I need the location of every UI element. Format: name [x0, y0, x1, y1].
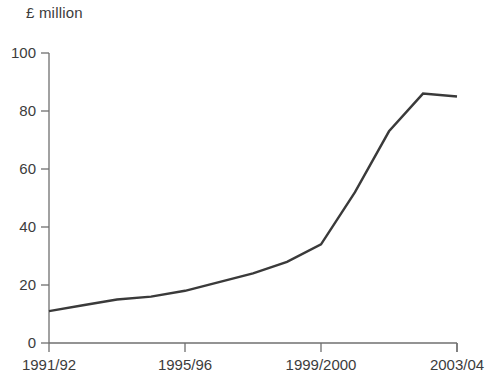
y-axis-tick-label: 40 — [19, 218, 36, 235]
data-series-line — [49, 94, 457, 312]
y-axis-tick-label: 20 — [19, 276, 36, 293]
x-axis-tick-label: 1995/96 — [158, 356, 212, 373]
line-chart-plot: 020406080100 1991/921995/961999/20002003… — [0, 0, 495, 378]
y-axis-tick-label: 100 — [11, 44, 36, 61]
y-axis-tick-group: 020406080100 — [11, 44, 49, 351]
x-axis-tick-label: 1991/92 — [22, 356, 76, 373]
y-axis-tick-label: 60 — [19, 160, 36, 177]
x-axis-tick-group: 1991/921995/961999/20002003/04 — [22, 343, 484, 373]
chart-container: £ million 020406080100 1991/921995/96199… — [0, 0, 495, 378]
x-axis-tick-label: 2003/04 — [430, 356, 484, 373]
x-axis-tick-label: 1999/2000 — [286, 356, 357, 373]
y-axis-tick-label: 0 — [28, 334, 36, 351]
y-axis-tick-label: 80 — [19, 102, 36, 119]
